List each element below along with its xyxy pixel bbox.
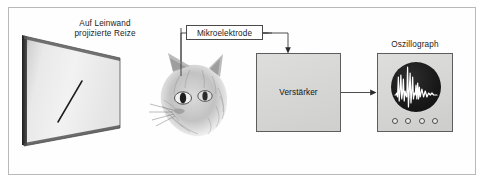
oscillograph-knob-4[interactable] [432,118,438,124]
cat-head-graphic [146,48,238,148]
electrode-to-amplifier-line [263,33,288,48]
figure-root: Auf Leinwand projizierte Reize Mikroelek… [0,0,489,192]
oscillograph-screen [391,62,441,112]
oscillograph-trace [391,62,441,112]
cat-head-illustration [146,48,238,148]
oscillograph-knob-row [378,118,452,124]
oscillograph-label: Oszillograph [372,40,458,50]
amplifier-label: Verstärker [257,88,340,97]
oscillograph-knob-1[interactable] [392,118,398,124]
oscillograph-trace-line [395,67,437,107]
amplifier-to-oscillograph-arrowhead [370,90,376,96]
oscillograph-box [377,53,453,132]
cat-fur-mass [149,53,227,136]
oscillograph-knob-2[interactable] [405,118,411,124]
amplifier-box: Verstärker [256,53,341,132]
oscillograph-knob-3[interactable] [419,118,425,124]
